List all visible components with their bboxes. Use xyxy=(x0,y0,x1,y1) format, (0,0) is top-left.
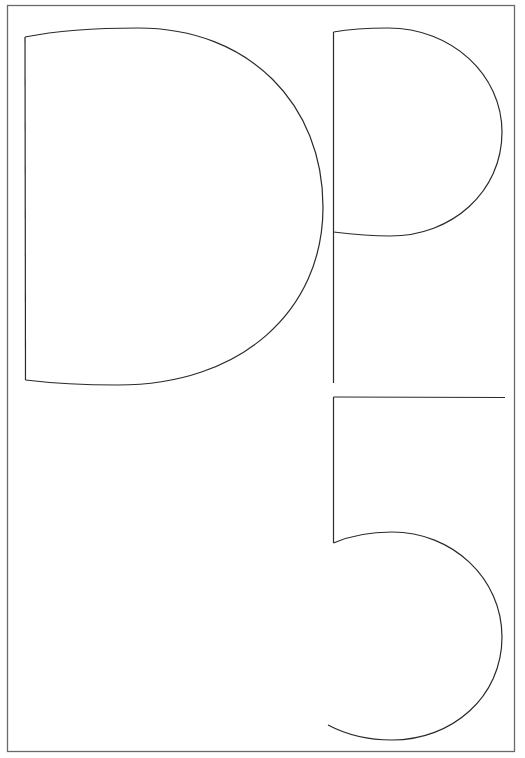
number-5-bowl xyxy=(328,532,502,740)
letter-d-bowl xyxy=(25,28,323,385)
number-5-outline xyxy=(328,397,505,740)
letter-p-bowl xyxy=(334,28,503,236)
frame-border xyxy=(8,6,515,752)
letter-d-stem xyxy=(25,37,26,380)
letter-outline-poster: DP5 xyxy=(0,0,525,758)
letter-d-outline xyxy=(25,28,323,385)
poster-canvas xyxy=(0,0,525,758)
number-5-top-bar xyxy=(334,397,506,398)
letter-p-outline xyxy=(334,28,503,383)
